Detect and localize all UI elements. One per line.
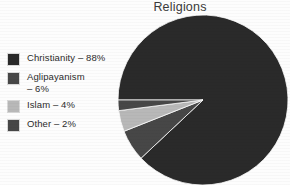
legend-item[interactable]: Aglipayanism – 6% — [7, 71, 117, 94]
legend-item-label: Islam – 4% — [27, 99, 75, 111]
legend-item[interactable]: Christianity – 88% — [7, 52, 117, 66]
legend-swatch-icon — [7, 119, 20, 132]
pie-slice-group — [118, 15, 288, 185]
legend-item-label: Other – 2% — [27, 118, 76, 130]
chart-legend: Christianity – 88%Aglipayanism – 6%Islam… — [7, 52, 117, 137]
legend-swatch-icon — [7, 53, 20, 66]
legend-item-label: Aglipayanism – 6% — [27, 71, 85, 94]
chart-figure: Religions Christianity – 88%Aglipayanism… — [0, 0, 290, 185]
legend-item-label: Christianity – 88% — [27, 52, 105, 64]
legend-swatch-icon — [7, 72, 20, 85]
legend-item[interactable]: Islam – 4% — [7, 99, 117, 113]
legend-swatch-icon — [7, 100, 20, 113]
legend-item[interactable]: Other – 2% — [7, 118, 117, 132]
